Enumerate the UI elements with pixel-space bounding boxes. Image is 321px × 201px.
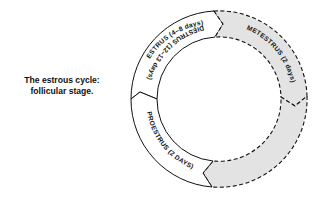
estrous-cycle-ring: ESTRUS (4–8 days) METESTRUS (2 days) DIE… [0,0,321,201]
segment-proestrus [131,92,213,187]
segment-estrus [131,11,223,99]
segment-metestrus [214,11,307,106]
segment-diestrus [203,96,307,187]
